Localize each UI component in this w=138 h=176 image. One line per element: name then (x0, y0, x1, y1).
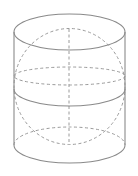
cylinder-bottom-front-arc (14, 145, 125, 163)
cylinder-sphere-diagram (0, 0, 138, 176)
